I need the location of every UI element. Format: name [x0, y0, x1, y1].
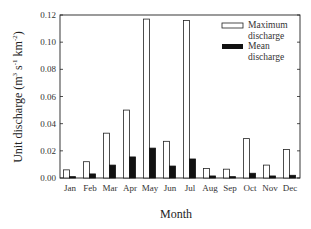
bar-maximum-nov — [264, 165, 270, 178]
legend-label-maximum-line1: Maximum — [248, 20, 288, 30]
y-axis-title: Unit discharge (m3 s-1 km-2) — [11, 31, 25, 163]
bar-maximum-jul — [184, 20, 190, 178]
x-tick-label-jul: Jul — [185, 183, 196, 193]
bar-maximum-mar — [104, 133, 110, 178]
x-tick-label-aug: Aug — [202, 183, 218, 193]
legend-label-mean-line1: Mean — [248, 41, 270, 51]
x-tick-label-nov: Nov — [262, 183, 278, 193]
legend-label-mean-line2: discharge — [248, 52, 284, 62]
x-tick-label-feb: Feb — [83, 183, 97, 193]
bar-mean-nov — [270, 176, 276, 178]
bar-maximum-sep — [224, 169, 230, 178]
bar-mean-dec — [290, 175, 296, 178]
x-tick-label-dec: Dec — [283, 183, 298, 193]
bar-mean-jul — [190, 159, 196, 178]
y-tick-label: 0.00 — [40, 173, 56, 183]
bar-mean-jun — [170, 166, 176, 178]
x-tick-label-oct: Oct — [244, 183, 257, 193]
bar-maximum-oct — [244, 139, 250, 178]
legend-label-maximum-line2: discharge — [248, 31, 284, 41]
legend-swatch-mean — [222, 44, 243, 49]
legend: Maximum discharge Mean discharge — [222, 20, 288, 62]
bar-mean-sep — [230, 177, 236, 178]
bar-maximum-dec — [284, 149, 290, 178]
bar-maximum-jun — [164, 141, 170, 178]
x-tick-label-jun: Jun — [164, 183, 177, 193]
bar-maximum-aug — [204, 168, 210, 178]
bar-maximum-may — [144, 19, 150, 178]
bar-mean-apr — [130, 157, 136, 178]
x-axis-ticks: JanFebMarAprMayJunJulAugSepOctNovDec — [64, 183, 297, 193]
bar-mean-oct — [250, 173, 256, 178]
bar-mean-feb — [90, 174, 96, 178]
y-tick-label: 0.08 — [40, 64, 56, 74]
x-tick-label-apr: Apr — [123, 183, 137, 193]
x-tick-label-jan: Jan — [64, 183, 76, 193]
bar-maximum-jan — [64, 170, 70, 178]
y-tick-label: 0.12 — [40, 10, 56, 20]
x-tick-label-mar: Mar — [103, 183, 118, 193]
bar-mean-jan — [70, 177, 76, 178]
y-tick-label: 0.10 — [40, 37, 56, 47]
y-tick-label: 0.04 — [40, 119, 56, 129]
x-tick-label-may: May — [142, 183, 159, 193]
bar-mean-aug — [210, 176, 216, 178]
legend-swatch-maximum — [222, 23, 243, 28]
y-tick-label: 0.06 — [40, 92, 56, 102]
bar-maximum-apr — [124, 110, 130, 178]
bar-mean-may — [150, 148, 156, 178]
bar-maximum-feb — [84, 162, 90, 178]
x-tick-label-sep: Sep — [223, 183, 237, 193]
bar-mean-mar — [110, 165, 116, 178]
bar-chart: 0.000.020.040.060.080.100.12 JanFebMarAp… — [0, 0, 311, 229]
y-tick-label: 0.02 — [40, 146, 56, 156]
x-axis-title: Month — [160, 207, 192, 221]
